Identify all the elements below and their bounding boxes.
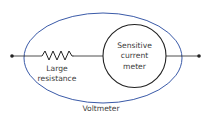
meter-label-line2: current bbox=[121, 51, 148, 60]
right-terminal-dot bbox=[197, 54, 201, 58]
voltmeter-diagram: Large resistance Sensitive current meter… bbox=[0, 0, 211, 122]
resistor-label-line1: Large bbox=[46, 64, 68, 73]
resistor-label-line2: resistance bbox=[38, 74, 77, 83]
resistor-icon bbox=[42, 51, 74, 60]
enclosure-label: Voltmeter bbox=[82, 104, 120, 113]
meter-label-line3: meter bbox=[123, 62, 147, 71]
meter-label-line1: Sensitive bbox=[117, 41, 152, 50]
